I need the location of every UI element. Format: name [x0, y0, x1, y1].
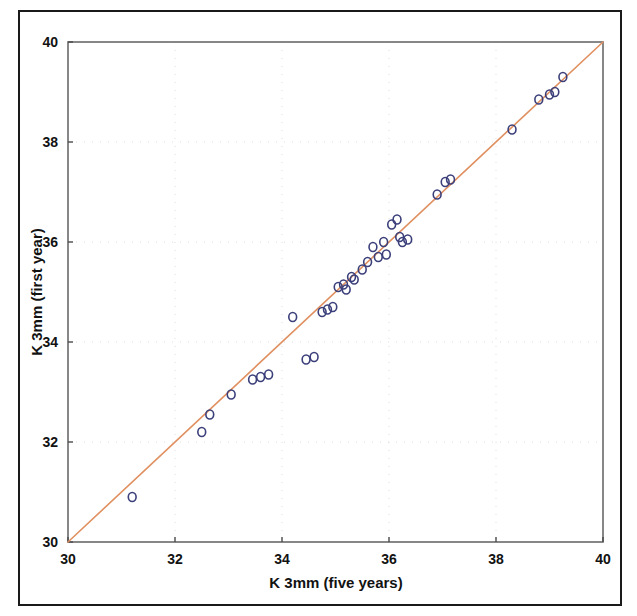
scatter-point [369, 243, 377, 252]
plot-svg: 303234363840303234363840 K 3mm (five yea… [0, 0, 637, 616]
x-tick-label: 36 [381, 551, 397, 567]
scatter-point [128, 493, 136, 502]
x-axis-title: K 3mm (five years) [269, 574, 402, 591]
scatter-point [257, 373, 265, 382]
scatter-point [198, 428, 206, 437]
scatter-point [265, 370, 273, 379]
scatter-point [374, 253, 382, 262]
y-axis-title: K 3mm (first year) [28, 228, 45, 356]
identity-line-path [68, 42, 603, 542]
scatter-point [249, 375, 257, 384]
x-tick-label: 38 [488, 551, 504, 567]
y-tick-label: 38 [42, 134, 58, 150]
figure-root: 303234363840303234363840 K 3mm (five yea… [0, 0, 637, 616]
scatter-point [289, 313, 297, 322]
x-tick-label: 30 [60, 551, 76, 567]
scatter-point [302, 355, 310, 364]
scatter-point [382, 250, 390, 259]
x-tick-label: 32 [167, 551, 183, 567]
y-tick-label: 32 [42, 434, 58, 450]
y-tick-label: 40 [42, 34, 58, 50]
scatter-point [393, 215, 401, 224]
identity-line [68, 42, 603, 542]
scatter-point [227, 390, 235, 399]
y-tick-label: 30 [42, 534, 58, 550]
x-tick-label: 34 [274, 551, 290, 567]
scatter-point [388, 220, 396, 229]
scatter-point [310, 353, 318, 362]
x-tick-label: 40 [595, 551, 611, 567]
scatter-point [206, 410, 214, 419]
scatter-plot: 303234363840303234363840 K 3mm (five yea… [0, 0, 637, 616]
